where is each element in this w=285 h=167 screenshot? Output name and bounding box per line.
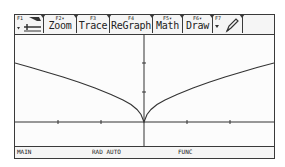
status-folder: MAIN bbox=[17, 147, 31, 157]
tab-label: ReGraph bbox=[110, 20, 152, 32]
tab-f5-math[interactable]: F5▾ Math bbox=[153, 15, 183, 33]
tab-f3-trace[interactable]: F3 Trace bbox=[77, 15, 110, 33]
function-toolbar: F1 F2▾ Zoom F3 Trace F4 ReGraph bbox=[15, 15, 274, 35]
tab-f8-empty[interactable] bbox=[243, 15, 274, 33]
tab-f7-pencil[interactable]: F7 bbox=[213, 15, 243, 33]
calculator-screen: F1 F2▾ Zoom F3 Trace F4 ReGraph bbox=[14, 14, 275, 159]
tab-f2-zoom[interactable]: F2▾ Zoom bbox=[44, 15, 77, 33]
tab-label: Draw bbox=[183, 20, 212, 32]
status-graph-mode: FUNC bbox=[178, 147, 192, 157]
tab-label: Trace bbox=[77, 20, 109, 32]
status-mode: RAD AUTO bbox=[92, 147, 121, 157]
tab-f1-tools[interactable]: F1 bbox=[15, 15, 44, 33]
graph-plot bbox=[15, 34, 274, 148]
tab-label: Zoom bbox=[44, 20, 76, 32]
status-bar: MAIN RAD AUTO FUNC bbox=[15, 146, 274, 158]
tab-f6-draw[interactable]: F6▾ Draw bbox=[183, 15, 213, 33]
tab-label: Math bbox=[153, 20, 182, 32]
graph-area[interactable] bbox=[15, 34, 274, 148]
tab-f4-regraph[interactable]: F4 ReGraph bbox=[110, 15, 153, 33]
